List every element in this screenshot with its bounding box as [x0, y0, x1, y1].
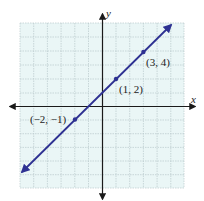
coordinate-plane: x y (−2, −1) (1, 2) (3, 4) [0, 0, 204, 201]
y-axis-label: y [105, 7, 111, 19]
point-3-4 [141, 50, 145, 54]
label-point-1-2: (1, 2) [119, 83, 143, 96]
label-point-neg2-neg1: (−2, −1) [30, 113, 67, 126]
point-neg2-neg1 [73, 117, 77, 121]
x-axis-label: x [190, 93, 196, 105]
label-point-3-4: (3, 4) [146, 56, 170, 69]
point-1-2 [114, 77, 118, 81]
